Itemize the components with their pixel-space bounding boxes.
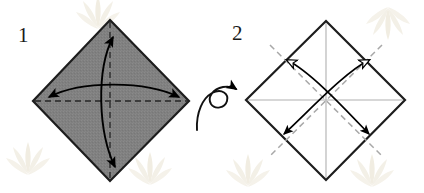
watermark-bottom-center [226, 154, 270, 187]
step-1-number: 1 [18, 23, 29, 47]
step-1-group: 1 [18, 20, 189, 181]
step-2-number: 2 [232, 21, 243, 45]
origami-diagram-page: 1 2 [0, 0, 424, 193]
step-2-group: 2 [232, 21, 405, 180]
watermark-bottom-right [350, 154, 394, 187]
watermark-bottom-left [6, 142, 50, 175]
watermark-top-right [366, 7, 410, 40]
turn-over-symbol [197, 87, 236, 130]
origami-diagram-canvas: 1 2 [0, 0, 424, 193]
turn-over-loop-arrow [197, 87, 236, 130]
